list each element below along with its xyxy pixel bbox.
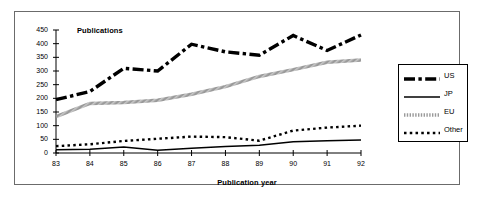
x-tick-label: 86 bbox=[147, 160, 169, 167]
y-tick-label: 200 bbox=[26, 94, 48, 101]
legend-label-other: Other bbox=[444, 125, 463, 134]
x-axis-title: Publication year bbox=[15, 178, 461, 187]
chart-legend: USJPEUOther bbox=[398, 64, 468, 142]
y-tick-label: 450 bbox=[26, 26, 48, 33]
x-tick-label: 87 bbox=[181, 160, 203, 167]
legend-item-jp[interactable]: JP bbox=[399, 84, 467, 102]
y-axis-title: Publications bbox=[77, 26, 123, 35]
legend-label-eu: EU bbox=[444, 107, 454, 116]
x-tick-label: 92 bbox=[350, 160, 372, 167]
data-series-group bbox=[56, 35, 361, 150]
legend-swatch-jp bbox=[403, 88, 441, 98]
legend-item-us[interactable]: US bbox=[399, 66, 467, 84]
legend-item-other[interactable]: Other bbox=[399, 120, 467, 138]
y-tick-label: 350 bbox=[26, 53, 48, 60]
x-tick-label: 90 bbox=[282, 160, 304, 167]
y-tick-label: 0 bbox=[26, 149, 48, 156]
y-tick-label: 400 bbox=[26, 40, 48, 47]
y-tick-label: 250 bbox=[26, 81, 48, 88]
y-tick-label: 300 bbox=[26, 67, 48, 74]
y-tick-label: 150 bbox=[26, 108, 48, 115]
legend-swatch-us bbox=[403, 70, 441, 80]
x-tick-label: 89 bbox=[248, 160, 270, 167]
y-tick-label: 50 bbox=[26, 135, 48, 142]
x-tick-label: 83 bbox=[45, 160, 67, 167]
series-line-jp bbox=[56, 140, 361, 150]
legend-swatch-other bbox=[403, 124, 441, 134]
legend-swatch-eu bbox=[403, 106, 441, 116]
series-line-eu bbox=[56, 60, 361, 117]
y-tick-label: 100 bbox=[26, 122, 48, 129]
series-line-other bbox=[56, 126, 361, 147]
legend-label-jp: JP bbox=[444, 89, 453, 98]
x-tick-label: 91 bbox=[316, 160, 338, 167]
x-tick-label: 84 bbox=[79, 160, 101, 167]
x-tick-label: 88 bbox=[214, 160, 236, 167]
chart-page: Publications Publication year 0501001502… bbox=[0, 0, 482, 208]
chart-frame: Publications Publication year 0501001502… bbox=[14, 11, 460, 185]
legend-item-eu[interactable]: EU bbox=[399, 102, 467, 120]
legend-label-us: US bbox=[444, 71, 454, 80]
x-tick-label: 85 bbox=[113, 160, 135, 167]
